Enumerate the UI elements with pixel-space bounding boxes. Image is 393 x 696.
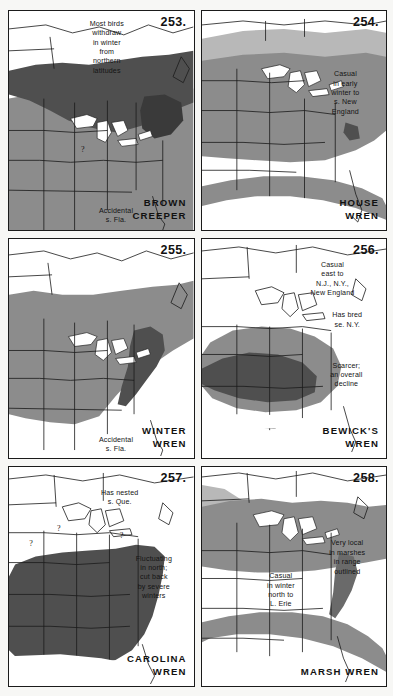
annotation-258-1: Casual in winter north to L. Erie <box>251 572 310 610</box>
annotation-254-0: Casual in early winter to s. New England <box>312 70 378 117</box>
annotation-257-1: Fluctuating in north; cut back by severe… <box>120 555 188 602</box>
map-panel-255[interactable]: 255. Accidental s. Fla. WINTER WREN <box>8 238 195 459</box>
species-label-257: CAROLINA WREN <box>127 653 186 678</box>
annotation-258-0: Very local in marshes in range outlined <box>316 539 379 577</box>
annotation-256-0: Casual east to N.J., N.Y., New England <box>290 261 375 299</box>
plate-number-255: 255. <box>161 243 187 257</box>
uncertainty-marker: ? <box>120 531 124 540</box>
plate-number-254: 254. <box>353 15 379 29</box>
map-panel-257[interactable]: 257. Has nested s. Que. Fluctuating in n… <box>8 466 195 687</box>
uncertainty-marker: ? <box>81 145 85 154</box>
plate-number-257: 257. <box>161 471 187 485</box>
map-panel-253[interactable]: 253. Most birds withdraw in winter from … <box>8 10 195 231</box>
annotation-256-2: Scarcer; an overall decline <box>312 362 380 390</box>
map-panel-258[interactable]: 258. Very local in marshes in range outl… <box>201 466 388 687</box>
map-panel-256[interactable]: 256. Casual east to N.J., N.Y., New Engl… <box>201 238 388 459</box>
plate-number-258: 258. <box>353 471 379 485</box>
annotation-255-0: Accidental s. Fla. <box>83 436 149 455</box>
species-label-258: MARSH WREN <box>301 666 379 678</box>
species-label-254: HOUSE WREN <box>339 197 379 222</box>
uncertainty-marker: ? <box>57 524 61 533</box>
plate-number-253: 253. <box>161 15 187 29</box>
map-panel-254[interactable]: 254. Casual in early winter to s. New En… <box>201 10 388 231</box>
species-label-255: WINTER WREN <box>142 425 186 450</box>
plate-sheet: 253. Most birds withdraw in winter from … <box>0 0 393 696</box>
annotation-256-1: Has bred se. N.Y. <box>316 311 379 330</box>
species-label-253: BROWN CREEPER <box>132 197 186 222</box>
annotation-253-0: Most birds withdraw in winter from north… <box>70 20 144 77</box>
uncertainty-marker: ? <box>29 539 33 548</box>
plate-number-256: 256. <box>353 243 379 257</box>
species-label-256: BEWICK'S WREN <box>323 425 379 450</box>
annotation-257-0: Has nested s. Que. <box>86 489 152 508</box>
